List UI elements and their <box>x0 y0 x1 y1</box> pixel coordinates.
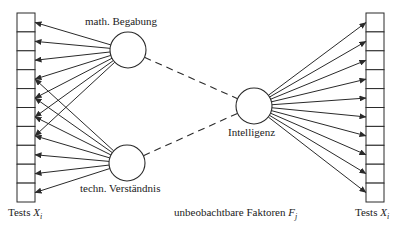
dashed-link <box>143 113 237 155</box>
left-tests-label: Tests Xi <box>8 206 42 221</box>
right-tests-label: Tests Xi <box>355 206 389 221</box>
right-test-box <box>366 145 384 164</box>
loading-arrows <box>35 22 366 192</box>
left-tests-sub: i <box>40 212 42 221</box>
right-tests-column <box>366 13 384 202</box>
right-test-box <box>366 89 384 108</box>
loading-arrow <box>35 155 109 162</box>
left-test-box <box>17 32 35 51</box>
left-test-box <box>17 164 35 183</box>
latent-factors-sub: j <box>295 212 297 221</box>
loading-arrow <box>272 108 366 117</box>
right-tests-prefix: Tests <box>355 206 377 218</box>
factor-circle-math <box>110 32 146 68</box>
loading-arrow <box>35 117 111 155</box>
factor-label-techn: techn. Verständnis <box>80 182 160 194</box>
factor-circle-techn <box>109 145 145 181</box>
right-tests-var: X <box>380 206 387 218</box>
right-test-box <box>366 126 384 145</box>
dashed-link <box>144 57 237 98</box>
loading-arrow <box>35 58 112 98</box>
factor-label-math: math. Begabung <box>85 15 157 27</box>
left-test-box <box>17 126 35 145</box>
loading-arrow <box>35 62 115 136</box>
latent-factors <box>109 32 272 181</box>
factor-label-intelligenz: Intelligenz <box>228 126 275 138</box>
left-tests-var: X <box>33 206 40 218</box>
factor-correlation-links <box>143 57 237 155</box>
loading-arrow <box>271 111 366 136</box>
left-test-box <box>17 145 35 164</box>
loading-arrow <box>271 113 366 155</box>
loading-arrow <box>268 117 366 193</box>
factor-circle-intel <box>236 88 272 124</box>
factor-diagram <box>0 0 407 228</box>
left-tests-prefix: Tests <box>8 206 30 218</box>
left-test-box <box>17 13 35 32</box>
latent-factors-label: unbeobachtbare Faktoren Fj <box>174 206 297 221</box>
right-test-box <box>366 13 384 32</box>
right-test-box <box>366 32 384 51</box>
right-test-box <box>366 164 384 183</box>
loading-arrow <box>271 60 366 99</box>
left-tests-column <box>17 13 35 202</box>
left-test-box <box>17 51 35 70</box>
latent-factors-text: unbeobachtbare Faktoren <box>174 206 285 218</box>
loading-arrow <box>272 98 366 105</box>
latent-factors-var: F <box>288 206 295 218</box>
left-test-box <box>17 89 35 108</box>
loading-arrow <box>35 61 113 117</box>
right-test-box <box>366 70 384 89</box>
loading-arrow <box>270 41 366 97</box>
loading-arrow <box>35 79 114 151</box>
left-test-box <box>17 108 35 127</box>
right-tests-sub: i <box>387 212 389 221</box>
right-test-box <box>366 51 384 70</box>
right-test-box <box>366 108 384 127</box>
loading-arrow <box>35 41 110 48</box>
left-test-box <box>17 183 35 202</box>
right-test-box <box>366 183 384 202</box>
loading-arrow <box>268 22 366 95</box>
loading-arrow <box>35 136 110 158</box>
left-test-box <box>17 70 35 89</box>
loading-arrow <box>269 115 366 173</box>
